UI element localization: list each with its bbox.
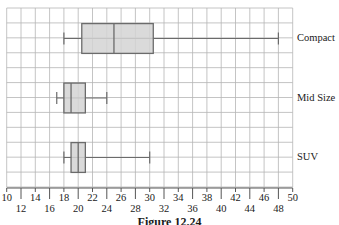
category-label-mid-size: Mid Size (297, 92, 335, 104)
x-tick-label: 28 (130, 203, 141, 214)
x-tick-label: 32 (159, 203, 170, 214)
x-tick-label: 24 (102, 203, 113, 214)
x-tick-label: 12 (16, 203, 27, 214)
iqr-box (82, 24, 153, 54)
x-tick-label: 50 (287, 192, 298, 203)
x-tick-label: 18 (59, 192, 70, 203)
x-tick-label: 26 (116, 192, 127, 203)
x-tick-label: 48 (273, 203, 284, 214)
box-compact (64, 24, 279, 54)
category-label-compact: Compact (297, 32, 335, 44)
iqr-box (64, 83, 85, 113)
category-label-suv: SUV (297, 151, 318, 163)
x-tick-label: 42 (230, 192, 241, 203)
x-tick-label: 46 (259, 192, 270, 203)
box-series (57, 24, 279, 173)
x-tick-label: 38 (202, 192, 213, 203)
x-tick-label: 10 (1, 192, 12, 203)
x-tick-label: 16 (44, 203, 55, 214)
x-tick-label: 34 (173, 192, 184, 203)
box-mid-size (57, 83, 107, 113)
x-tick-label: 20 (73, 203, 84, 214)
x-tick-label: 40 (216, 203, 227, 214)
x-tick-label: 44 (245, 203, 256, 214)
x-tick-label: 22 (87, 192, 98, 203)
figure-caption: Figure 12.24 (0, 215, 339, 225)
x-tick-label: 14 (30, 192, 41, 203)
x-tick-label: 36 (187, 203, 198, 214)
x-tick-label: 30 (144, 192, 155, 203)
